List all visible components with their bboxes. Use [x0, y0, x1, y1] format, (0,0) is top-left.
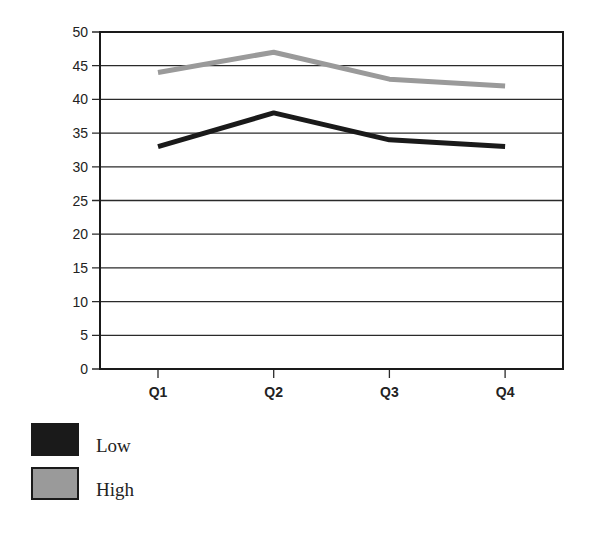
- x-axis-ticks: Q1Q2Q3Q4: [149, 369, 515, 400]
- series-line-high: [158, 52, 505, 86]
- x-tick-label: Q1: [149, 384, 168, 400]
- x-tick-label: Q2: [264, 384, 283, 400]
- y-tick-label: 35: [72, 125, 88, 141]
- y-tick-label: 40: [72, 91, 88, 107]
- y-tick-label: 25: [72, 193, 88, 209]
- y-tick-label: 20: [72, 226, 88, 242]
- line-chart: 05101520253035404550 Q1Q2Q3Q4: [0, 0, 596, 410]
- y-tick-label: 30: [72, 159, 88, 175]
- y-axis-ticks: 05101520253035404550: [72, 24, 88, 377]
- y-tick-label: 10: [72, 294, 88, 310]
- y-tick-label: 45: [72, 58, 88, 74]
- legend-swatch-low: [31, 423, 79, 456]
- gridlines: [92, 32, 563, 369]
- x-tick-label: Q4: [496, 384, 515, 400]
- x-tick-label: Q3: [380, 384, 399, 400]
- legend: Low High: [31, 417, 134, 505]
- legend-label-low: Low: [96, 435, 131, 457]
- y-tick-label: 5: [80, 327, 88, 343]
- legend-item-low: Low: [31, 417, 134, 461]
- legend-swatch-high: [31, 467, 79, 500]
- y-tick-label: 0: [80, 361, 88, 377]
- legend-item-high: High: [31, 461, 134, 505]
- series-line-low: [158, 113, 505, 147]
- legend-label-high: High: [96, 479, 134, 501]
- y-tick-label: 50: [72, 24, 88, 40]
- y-tick-label: 15: [72, 260, 88, 276]
